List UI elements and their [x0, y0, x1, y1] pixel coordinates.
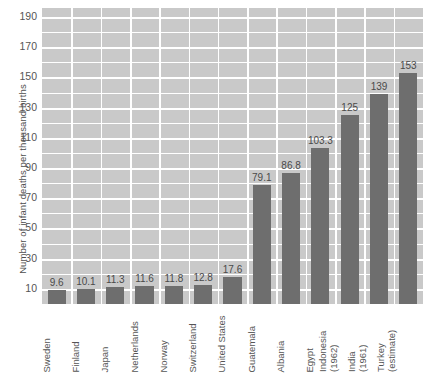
gridline-vertical [276, 8, 278, 304]
y-axis-tick-label: 70 [1, 192, 37, 203]
bar-value-label: 125 [335, 102, 364, 113]
gridline-vertical [101, 8, 103, 304]
bar-value-label: 9.6 [42, 277, 71, 288]
bar-value-label: 153 [394, 60, 423, 71]
y-axis-tick-label: 10 [1, 283, 37, 294]
y-axis-tick-label: 50 [1, 222, 37, 233]
infant-mortality-bar-chart: Number of infant deaths per thousand bir… [0, 0, 432, 376]
bar [165, 286, 183, 304]
bar-value-label: 86.8 [276, 160, 305, 171]
bar [370, 94, 388, 304]
bar [399, 73, 417, 304]
gridline-vertical [189, 8, 191, 304]
bar [311, 148, 329, 304]
bar-value-label: 10.1 [71, 276, 100, 287]
y-axis-tick-label: 110 [1, 132, 37, 143]
gridline-vertical [130, 8, 132, 304]
bar-value-label: 17.6 [218, 264, 247, 275]
gridline-vertical [159, 8, 161, 304]
x-axis-tick-label: Japan [101, 304, 130, 374]
bar [135, 286, 153, 304]
y-axis-tick-label: 150 [1, 71, 37, 82]
bar-value-label: 139 [364, 81, 393, 92]
bar-value-label: 11.8 [159, 273, 188, 284]
bar-value-label: 103.3 [306, 135, 335, 146]
y-axis-tick-label: 30 [1, 253, 37, 264]
x-axis-tick-label: Turkey(estimate) [394, 304, 423, 374]
gridline-vertical [247, 8, 249, 304]
x-axis-tick-label: Finland [71, 304, 100, 374]
bar [253, 185, 271, 304]
x-axis-tick-label: Netherlands [130, 304, 159, 374]
bar-value-label: 11.6 [130, 273, 159, 284]
bar-value-label: 79.1 [247, 172, 276, 183]
y-axis-tick-labels: 1030507090110130150170190 [0, 0, 40, 376]
bar-value-label: 11.3 [101, 274, 130, 285]
gridline-vertical [306, 8, 308, 304]
y-axis-tick-label: 170 [1, 41, 37, 52]
x-axis-tick-label: United States [218, 304, 247, 374]
bar [77, 289, 95, 304]
x-axis-tick-label: Guatemala [247, 304, 276, 374]
bar [341, 115, 359, 304]
gridline-vertical [218, 8, 220, 304]
y-axis-tick-label: 190 [1, 11, 37, 22]
gridline-vertical [364, 8, 366, 304]
bar [282, 173, 300, 304]
bar [194, 285, 212, 304]
bar [106, 287, 124, 304]
x-axis-tick-label: Norway [159, 304, 188, 374]
x-axis-tick-labels: SwedenFinlandJapanNetherlandsNorwaySwitz… [42, 304, 423, 376]
x-axis-tick-label: Albania [276, 304, 305, 374]
x-axis-tick-label: Switzerland [189, 304, 218, 374]
y-axis-tick-label: 130 [1, 102, 37, 113]
gridline-vertical [71, 8, 73, 304]
gridline-vertical [335, 8, 337, 304]
bar [48, 290, 66, 304]
y-axis-tick-label: 90 [1, 162, 37, 173]
x-axis-tick-label: Sweden [42, 304, 71, 374]
bar-value-label: 12.8 [189, 272, 218, 283]
gridline-vertical [394, 8, 396, 304]
plot-area [42, 8, 423, 304]
bar [223, 277, 241, 304]
